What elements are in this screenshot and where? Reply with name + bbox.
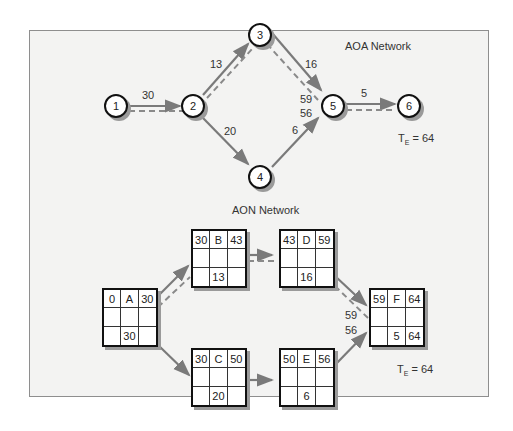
aoa-node-6: 6 — [397, 94, 421, 118]
aoa-node-2: 2 — [181, 94, 205, 118]
aoa-merge-bottom: 56 — [300, 107, 312, 119]
aoa-node-3: 3 — [248, 23, 272, 47]
aon-activity-a: 0 A 30 30 — [102, 288, 158, 347]
aoa-title: AOA Network — [345, 40, 411, 52]
aoa-node-5: 5 — [321, 94, 345, 118]
aon-merge-top: 59 — [345, 309, 357, 321]
aon-activity-f: 59 F 64 5 64 — [369, 288, 425, 347]
aoa-node-1: 1 — [104, 94, 128, 118]
aon-te-label: TE = 64 — [397, 363, 433, 377]
aon-title: AON Network — [232, 204, 299, 216]
aoa-merge-top: 59 — [300, 93, 312, 105]
edge-label-2-4: 20 — [224, 125, 236, 137]
aon-activity-e: 50 E 56 6 — [279, 348, 335, 407]
edge-label-2-3: 13 — [210, 58, 222, 70]
aoa-node-4: 4 — [248, 165, 272, 189]
aon-merge-bottom: 56 — [345, 324, 357, 336]
edge-label-3-5: 16 — [305, 58, 317, 70]
aon-activity-c: 30 C 50 20 — [191, 348, 247, 407]
edge-label-4-5: 6 — [292, 124, 298, 136]
aoa-te-label: TE = 64 — [398, 132, 434, 146]
aon-activity-b: 30 B 43 13 — [191, 229, 247, 288]
edge-label-1-2: 30 — [142, 89, 154, 101]
aon-activity-d: 43 D 59 16 — [279, 229, 335, 288]
edge-label-5-6: 5 — [361, 87, 367, 99]
